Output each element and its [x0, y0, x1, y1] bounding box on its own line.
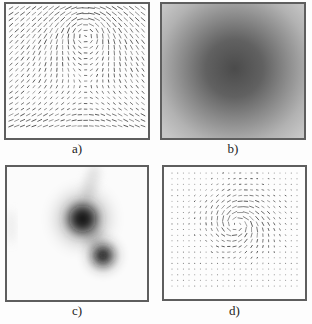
panel-a-label: a)	[4, 141, 150, 157]
panel-b-label: b)	[160, 141, 306, 157]
four-panel-figure: a) b) c) d)	[0, 0, 312, 324]
panel-c-label: c)	[5, 303, 149, 319]
quiver-plot-d	[164, 167, 305, 299]
panel-c-blob-image	[5, 165, 149, 302]
panel-a-vector-field	[4, 2, 150, 140]
blob-image-c	[7, 167, 147, 300]
panel-d-label: d)	[162, 303, 307, 319]
panel-b-intensity-map	[160, 2, 306, 140]
quiver-plot-a	[6, 4, 148, 138]
panel-d-vortex-field	[162, 165, 307, 301]
